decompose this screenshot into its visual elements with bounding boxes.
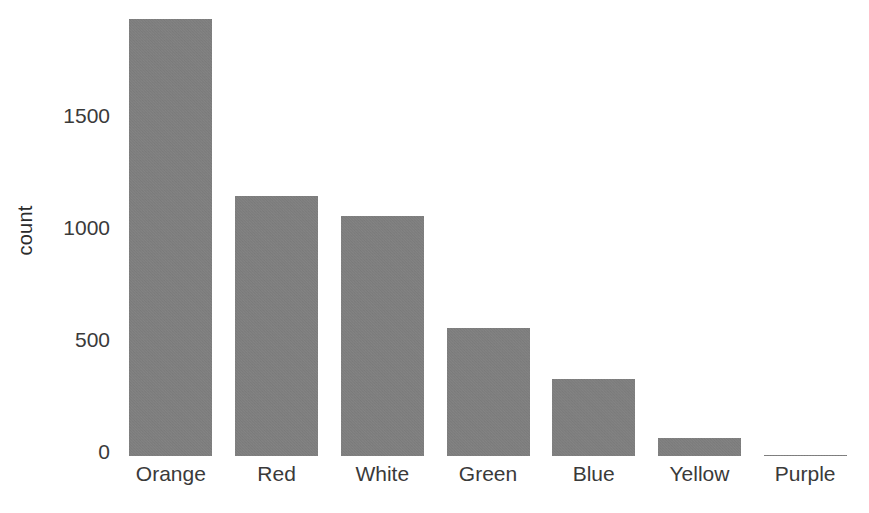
y-tick-label-1000: 1000 [63, 216, 110, 240]
bar-purple [764, 455, 847, 457]
bar-blue [552, 379, 635, 456]
y-tick-label-0: 0 [98, 440, 110, 464]
bar-red [235, 196, 318, 456]
bar-chart: count 1500 1000 500 0 OrangeRedWhiteGree… [0, 0, 869, 513]
bar-orange [129, 19, 212, 456]
x-tick-label-white: White [355, 462, 409, 486]
bars-layer [118, 8, 858, 458]
x-tick-label-green: Green [459, 462, 517, 486]
y-axis-title-label: count [15, 205, 38, 255]
x-axis-tick-labels: OrangeRedWhiteGreenBlueYellowPurple [118, 462, 858, 502]
x-tick-label-purple: Purple [775, 462, 836, 486]
x-tick-label-yellow: Yellow [669, 462, 729, 486]
bar-yellow [658, 438, 741, 456]
x-tick-label-blue: Blue [573, 462, 615, 486]
plot-area [118, 8, 858, 458]
y-tick-label-1500: 1500 [63, 104, 110, 128]
bar-green [447, 328, 530, 456]
bar-white [341, 216, 424, 456]
y-axis-tick-labels: 1500 1000 500 0 [40, 0, 118, 513]
x-tick-label-red: Red [257, 462, 296, 486]
x-tick-label-orange: Orange [136, 462, 206, 486]
y-tick-label-500: 500 [75, 328, 110, 352]
